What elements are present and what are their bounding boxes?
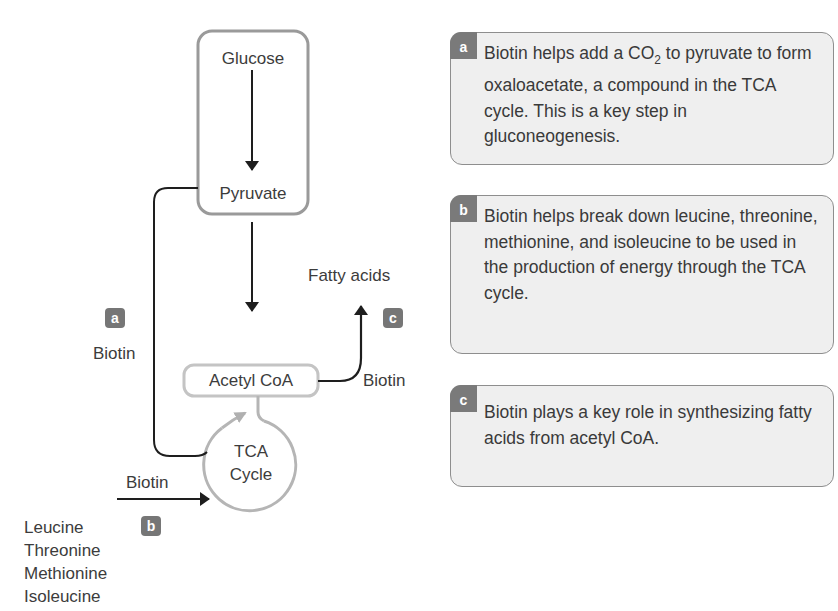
amino-acid-methionine: Methionine (24, 562, 107, 585)
acetyl-coa-label: Acetyl CoA (209, 372, 293, 389)
amino-acid-list: Leucine Threonine Methionine Isoleucine (24, 516, 107, 608)
glucose-label: Glucose (222, 50, 284, 67)
tca-cycle-arrow (222, 413, 245, 428)
panel-b-text: Biotin helps break down leucine, threoni… (474, 204, 819, 306)
acetylcoa-to-tca-connector (258, 396, 264, 421)
pyruvate-label: Pyruvate (219, 185, 286, 202)
acetylcoa-to-fattyacids-arrow (318, 306, 361, 381)
biotin-label-c: Biotin (363, 372, 406, 389)
explanation-panel-b: b Biotin helps break down leucine, threo… (450, 195, 834, 354)
amino-acid-threonine: Threonine (24, 539, 107, 562)
badge-b: b (141, 516, 161, 536)
explanation-panel-a: a Biotin helps add a CO2 to pyruvate to … (450, 32, 834, 165)
amino-acid-leucine: Leucine (24, 516, 107, 539)
panel-tag-b: b (450, 195, 477, 222)
badge-c: c (383, 308, 403, 328)
fatty-acids-label: Fatty acids (308, 267, 390, 284)
pyruvate-to-tca-path (154, 188, 207, 456)
biotin-label-b: Biotin (126, 474, 169, 491)
panel-a-subscript: 2 (654, 53, 661, 67)
panel-a-text: Biotin helps add a CO2 to pyruvate to fo… (474, 41, 819, 150)
tca-label-line2: Cycle (230, 466, 273, 483)
tca-label-line1: TCA (234, 443, 268, 460)
panel-tag-c: c (450, 385, 477, 412)
biotin-label-a: Biotin (93, 345, 136, 362)
panel-tag-a: a (450, 32, 477, 59)
panel-c-text: Biotin plays a key role in synthesizing … (474, 394, 819, 451)
panel-a-text-pre: Biotin helps add a CO (484, 43, 654, 63)
explanation-panel-c: c Biotin plays a key role in synthesizin… (450, 385, 834, 487)
badge-a: a (105, 308, 125, 328)
amino-acid-isoleucine: Isoleucine (24, 585, 107, 608)
